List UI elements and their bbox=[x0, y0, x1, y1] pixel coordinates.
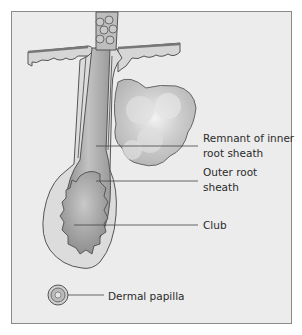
dermal-papilla bbox=[48, 285, 68, 305]
epidermis-right bbox=[118, 43, 180, 72]
sebaceous-gland bbox=[114, 79, 196, 166]
label-line: Dermal papilla bbox=[108, 289, 185, 304]
label-line: sheath bbox=[203, 180, 257, 195]
label-outer-root-sheath: Outer root sheath bbox=[203, 165, 257, 195]
label-line: root sheath bbox=[203, 146, 294, 161]
label-dermal-papilla: Dermal papilla bbox=[108, 289, 185, 304]
label-club: Club bbox=[203, 218, 227, 233]
hair-tip-cells bbox=[96, 12, 118, 50]
label-remnant-inner-root-sheath: Remnant of inner root sheath bbox=[203, 131, 294, 161]
label-line: Club bbox=[203, 218, 227, 233]
label-line: Remnant of inner bbox=[203, 131, 294, 146]
label-line: Outer root bbox=[203, 165, 257, 180]
